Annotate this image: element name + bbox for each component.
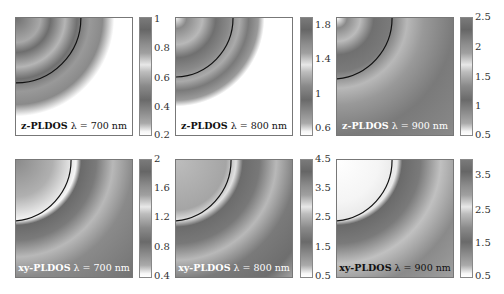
tick-label: 1.8	[315, 20, 331, 30]
tick-label: 0.4	[154, 271, 170, 281]
tick-label: 0.5	[475, 130, 491, 140]
tick-label: 3.5	[475, 170, 491, 180]
heatmap-z-700: z-PLDOS λ = 700 nm	[15, 17, 133, 136]
tick-label: 0.6	[315, 123, 331, 133]
heatmap-xy-900: xy-PLDOS λ = 900 nm	[336, 159, 454, 278]
colorbar-z-900	[460, 17, 473, 136]
heatmap-image	[176, 18, 292, 135]
colorbar-xy-800	[300, 159, 313, 278]
tick-label: 1	[475, 101, 481, 111]
tick-label: 1.5	[315, 242, 331, 252]
panel-title: xy-PLDOS λ = 800 nm	[176, 262, 292, 273]
tick-label: 1.2	[154, 212, 170, 222]
tick-label: 1.5	[475, 72, 491, 82]
heatmap-image	[337, 18, 453, 135]
tick-label: 2.5	[475, 12, 491, 22]
panel-title: xy-PLDOS λ = 700 nm	[16, 262, 132, 273]
tick-label: 1.4	[315, 54, 331, 64]
tick-label: 1.5	[475, 238, 491, 248]
tick-label: 0.6	[154, 73, 170, 83]
panel-title: z-PLDOS λ = 800 nm	[176, 120, 292, 131]
tick-label: 1	[154, 14, 160, 24]
colorbar-xy-700	[139, 159, 152, 278]
tick-label: 0.5	[315, 271, 331, 281]
tick-label: 4.5	[315, 154, 331, 164]
heatmap-image	[16, 18, 132, 135]
panel-title: z-PLDOS λ = 900 nm	[337, 120, 453, 131]
colorbar-xy-900	[460, 159, 473, 278]
tick-label: 1.6	[154, 183, 170, 193]
tick-label: 2	[154, 154, 160, 164]
tick-label: 3.5	[315, 183, 331, 193]
tick-label: 2	[475, 42, 481, 52]
colorbar-z-700	[139, 17, 152, 136]
tick-label: 1	[315, 89, 321, 99]
tick-label: 0.8	[154, 242, 170, 252]
heatmap-xy-700: xy-PLDOS λ = 700 nm	[15, 159, 133, 278]
colorbar-z-800	[300, 17, 313, 136]
heatmap-image	[337, 160, 453, 277]
tick-label: 2.5	[475, 205, 491, 215]
heatmap-image	[16, 160, 132, 277]
panel-title: z-PLDOS λ = 700 nm	[16, 120, 132, 131]
tick-label: 0.4	[154, 102, 170, 112]
tick-label: 0.2	[154, 130, 170, 140]
tick-label: 2.5	[315, 212, 331, 222]
heatmap-z-900: z-PLDOS λ = 900 nm	[336, 17, 454, 136]
tick-label: 0.5	[475, 271, 491, 281]
heatmap-xy-800: xy-PLDOS λ = 800 nm	[175, 159, 293, 278]
heatmap-image	[176, 160, 292, 277]
heatmap-z-800: z-PLDOS λ = 800 nm	[175, 17, 293, 136]
tick-label: 0.8	[154, 43, 170, 53]
panel-title: xy-PLDOS λ = 900 nm	[337, 262, 453, 273]
